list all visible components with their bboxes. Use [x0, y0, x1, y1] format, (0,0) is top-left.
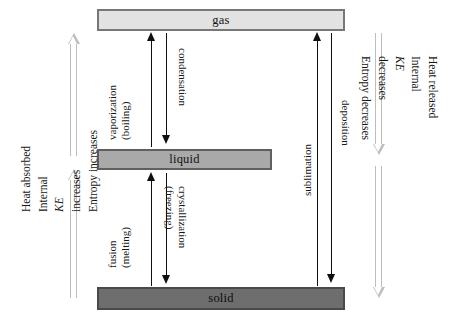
fusion-arrow-shaft: [151, 180, 152, 286]
sublimation-line1: sublimation: [301, 144, 313, 196]
condensation-arrow-head-down-icon: [162, 135, 170, 144]
exothermic-line-1: Heat released: [424, 56, 441, 140]
transition-label-crystallization: crystallization (freezing): [162, 186, 189, 248]
vaporization-arrow-head-up-icon: [147, 32, 155, 41]
exothermic-line-2-prefix: Internal: [408, 56, 425, 140]
phase-box-liquid: liquid: [97, 149, 272, 170]
vaporization-line2: (boiling): [119, 85, 132, 140]
condensation-arrow-shaft: [166, 33, 167, 137]
fusion-arrow-head-up-icon: [147, 172, 155, 181]
transition-label-fusion: fusion (melting): [106, 227, 133, 268]
phase-box-gas: gas: [97, 9, 345, 31]
crystallization-line2: (freezing): [162, 186, 175, 248]
exothermic-line-2: Internal KE decreases: [374, 56, 424, 140]
crystallization-arrow-head-down-icon: [162, 275, 170, 284]
deposition-line1: deposition: [340, 100, 352, 146]
endothermic-line-2-prefix: Internal: [35, 130, 52, 212]
sublimation-arrow-shaft: [317, 40, 318, 286]
crystallization-line1: crystallization: [177, 186, 189, 248]
right-annotation-exothermic: Heat released Internal KE decreases Entr…: [358, 56, 441, 140]
fusion-line1: fusion: [106, 241, 118, 269]
exothermic-line-2-suffix: decreases: [374, 56, 391, 140]
phase-label-solid: solid: [208, 291, 233, 306]
transition-label-condensation: condensation: [176, 48, 189, 106]
endothermic-line-3: Entropy increases: [85, 130, 102, 212]
exothermic-arrow-lower-shaft: [375, 166, 382, 288]
exothermic-arrow-lower-head-inner: [374, 287, 382, 295]
exothermic-arrow-upper-head-inner: [374, 144, 382, 152]
sublimation-arrow-head-up-icon: [313, 32, 321, 41]
endothermic-arrow-upper-head-inner: [69, 36, 77, 44]
vaporization-arrow-shaft: [151, 40, 152, 147]
phase-label-liquid: liquid: [169, 152, 199, 167]
endothermic-line-2-suffix: increases: [68, 130, 85, 212]
deposition-arrow-shaft: [331, 33, 332, 276]
vaporization-line1: vaporization: [106, 85, 118, 140]
fusion-line2: (melting): [119, 227, 132, 268]
phase-box-solid: solid: [97, 287, 345, 310]
left-annotation-endothermic: Heat absorbed Internal KE increases Entr…: [18, 130, 101, 212]
exothermic-ke-italic: KE: [394, 56, 406, 71]
condensation-line1: condensation: [177, 48, 189, 106]
phase-change-diagram: gas liquid solid vaporization (boiling) …: [0, 0, 459, 328]
transition-label-deposition: deposition: [339, 100, 352, 146]
exothermic-line-3: Entropy decreases: [358, 56, 375, 140]
endothermic-line-2: Internal KE increases: [35, 130, 85, 212]
endothermic-ke-italic: KE: [53, 197, 65, 212]
endothermic-line-1: Heat absorbed: [18, 130, 35, 212]
transition-label-vaporization: vaporization (boiling): [106, 85, 133, 140]
transition-label-sublimation: sublimation: [301, 144, 314, 196]
phase-label-gas: gas: [212, 13, 229, 28]
deposition-arrow-head-down-icon: [327, 274, 335, 283]
